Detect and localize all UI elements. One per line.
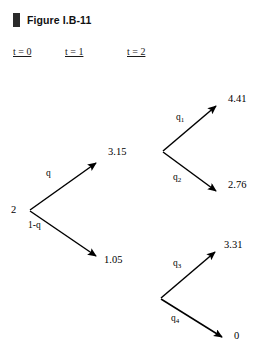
branch-label-q3: q3 bbox=[173, 258, 181, 268]
branch-label-q-text: q bbox=[46, 168, 51, 178]
branch-label-q2: q2 bbox=[173, 172, 181, 182]
node-value-ud: 2.76 bbox=[228, 179, 246, 190]
branch-label-q1: q1 bbox=[176, 112, 184, 122]
branch-label-q4-subscript: 4 bbox=[176, 317, 180, 325]
edge-root-down bbox=[30, 211, 96, 256]
edge-up-uu bbox=[163, 106, 216, 151]
branch-label-q4: q4 bbox=[171, 313, 179, 323]
branch-label-q1-subscript: 1 bbox=[181, 116, 185, 124]
node-value-root: 2 bbox=[11, 204, 16, 215]
node-value-du: 3.31 bbox=[224, 239, 242, 250]
figure-container: Figure I.B-11 t = 0 t = 1 t = 2 2 3.15 1… bbox=[0, 0, 265, 354]
branch-label-1-minus-q-text: 1-q bbox=[28, 220, 41, 230]
node-value-down: 1.05 bbox=[104, 254, 122, 265]
branch-label-1-minus-q: 1-q bbox=[28, 220, 41, 230]
branch-label-q: q bbox=[46, 168, 51, 178]
edge-down-du bbox=[161, 252, 215, 298]
edge-up-ud bbox=[163, 152, 216, 191]
branch-label-q2-subscript: 2 bbox=[178, 176, 182, 184]
node-value-dd: 0 bbox=[234, 330, 239, 341]
branch-label-q3-subscript: 3 bbox=[178, 262, 182, 270]
tree-edges-svg bbox=[0, 0, 265, 354]
node-value-uu: 4.41 bbox=[228, 93, 246, 104]
edge-root-up bbox=[30, 163, 96, 210]
node-value-up: 3.15 bbox=[108, 146, 126, 157]
